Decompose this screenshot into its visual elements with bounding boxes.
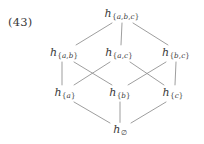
lattice-node-ac: h{a,c} — [103, 46, 135, 61]
lattice-node-top: h{a,b,c} — [103, 7, 142, 22]
node-subscript: {a} — [62, 91, 76, 100]
node-subscript: {a,b} — [57, 51, 78, 60]
node-subscript: {c} — [170, 91, 184, 100]
node-subscript: {a,c} — [112, 51, 133, 60]
lattice-node-b: h{b} — [107, 86, 132, 101]
lattice-node-bc: h{b,c} — [160, 46, 192, 61]
lattice-node-ab: h{a,b} — [48, 46, 80, 61]
hasse-edge — [76, 23, 112, 45]
hasse-edge — [133, 23, 168, 45]
equation-number: (43) — [8, 15, 32, 29]
hasse-edge — [121, 23, 122, 45]
lattice-node-c: h{c} — [161, 86, 186, 101]
lattice-node-a: h{a} — [52, 86, 77, 101]
hasse-edge — [74, 102, 110, 123]
lattice-node-empty: h∅ — [111, 123, 129, 138]
node-subscript: {a,b,c} — [112, 12, 140, 21]
figure-canvas: (43) h{a,b,c}h{a,b}h{a,c}h{b,c}h{a}h{b}h… — [0, 0, 204, 144]
node-subscript: {b} — [116, 91, 130, 100]
node-subscript: ∅ — [120, 128, 126, 137]
hasse-edge — [128, 62, 166, 85]
hasse-edge — [175, 62, 176, 85]
hasse-edge — [131, 102, 166, 123]
node-subscript: {b,c} — [169, 51, 190, 60]
